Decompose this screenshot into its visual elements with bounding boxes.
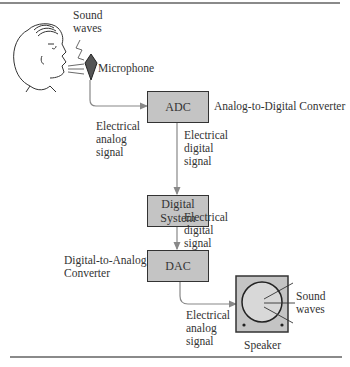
adc-label: ADC xyxy=(165,100,190,114)
edge-label-dac-speaker: Electrical analog signal xyxy=(186,309,230,348)
adc-box: ADC xyxy=(147,91,209,123)
microphone-icon xyxy=(85,54,97,80)
speaker-label: Speaker xyxy=(244,339,281,352)
microphone-label: Microphone xyxy=(98,62,154,75)
person-head-icon xyxy=(14,24,66,92)
edge-label-digital-dac: Electrical digital signal xyxy=(184,211,228,250)
edge-label-mic-adc: Electrical analog signal xyxy=(96,120,140,159)
input-sound-waves-label: Sound waves xyxy=(73,9,102,35)
dac-label: DAC xyxy=(165,259,190,273)
speaker-icon xyxy=(236,276,295,332)
dac-box: DAC xyxy=(147,250,209,282)
output-sound-waves-label: Sound waves xyxy=(296,290,325,316)
adc-description: Analog-to-Digital Converter xyxy=(214,100,345,113)
dac-description: Digital-to-Analog Converter xyxy=(64,254,146,280)
bottom-rule xyxy=(10,356,342,358)
edge-label-adc-digital: Electrical digital signal xyxy=(184,129,228,168)
sound-waves-icon xyxy=(68,40,84,74)
